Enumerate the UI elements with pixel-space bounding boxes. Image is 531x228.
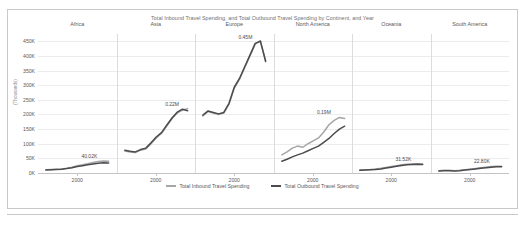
panel-title: Africa <box>38 21 117 27</box>
chart-panel: Africa40.02K2000 <box>38 34 117 173</box>
data-label: 0.45M <box>238 34 252 40</box>
legend-label: Total Outbound Travel Spending <box>284 183 358 189</box>
chart-legend: Total Inbound Travel SpendingTotal Outbo… <box>8 183 517 189</box>
panel-title: North America <box>274 21 353 27</box>
legend-label: Total Inbound Travel Spending <box>179 183 249 189</box>
series-line <box>281 126 344 161</box>
series-group <box>195 34 274 173</box>
x-axis-tick-mark <box>391 173 392 176</box>
y-axis-tick: 300K <box>23 82 35 88</box>
y-axis-tick: 250K <box>23 97 35 103</box>
legend-swatch-icon <box>166 185 176 187</box>
x-axis-tick-mark <box>77 173 78 176</box>
series-line <box>203 41 266 116</box>
panel-separator <box>431 34 432 173</box>
panel-separator <box>274 34 275 173</box>
series-group <box>117 34 196 173</box>
x-axis-tick-mark <box>313 173 314 176</box>
series-line <box>124 109 187 152</box>
panel-separator <box>195 34 196 173</box>
y-axis-tick: 150K <box>23 126 35 132</box>
chart-card: Total Inbound Travel Spending, and Total… <box>7 9 518 209</box>
x-axis-line <box>38 173 509 174</box>
series-line <box>203 41 266 115</box>
legend-item[interactable]: Total Inbound Travel Spending <box>166 183 249 189</box>
y-axis-tick: 450K <box>23 38 35 44</box>
panel-separator <box>117 34 118 173</box>
chart-panel: North America0.19M2000 <box>274 34 353 173</box>
chart-panel: Oceania31.52K2000 <box>352 34 431 173</box>
panel-separator <box>352 34 353 173</box>
chart-panel: Europe0.45M2000 <box>195 34 274 173</box>
bottom-divider <box>7 214 518 215</box>
series-group <box>352 34 431 173</box>
data-label: 31.52K <box>395 156 411 162</box>
y-axis-tick: 50K <box>26 155 35 161</box>
y-axis-tick: 200K <box>23 111 35 117</box>
series-line <box>46 163 109 170</box>
series-line <box>46 161 109 170</box>
data-label: 0.19M <box>317 109 331 115</box>
plot-area: Africa40.02K2000Asia0.22M2000Europe0.45M… <box>38 34 509 173</box>
y-axis-tick: 350K <box>23 68 35 74</box>
series-group <box>274 34 353 173</box>
series-line <box>438 167 501 171</box>
data-label: 0.22M <box>165 101 179 107</box>
series-line <box>360 164 423 170</box>
chart-panel: South America22.80K2000 <box>431 34 510 173</box>
chart-panel: Asia0.22M2000 <box>117 34 196 173</box>
panel-title: Europe <box>195 21 274 27</box>
panel-title: Asia <box>117 21 196 27</box>
y-axis-tick: 400K <box>23 53 35 59</box>
data-label: 40.02K <box>81 153 97 159</box>
y-axis-tick-labels: 0K50K100K150K200K250K300K350K400K450K <box>8 34 37 173</box>
x-axis-tick-mark <box>156 173 157 176</box>
series-group <box>38 34 117 173</box>
y-axis-tick: 100K <box>23 141 35 147</box>
panel-title: Oceania <box>352 21 431 27</box>
y-axis-tick: 0K <box>29 170 35 176</box>
series-group <box>431 34 510 173</box>
legend-swatch-icon <box>271 185 281 187</box>
x-axis-tick-mark <box>234 173 235 176</box>
data-label: 22.80K <box>474 158 490 164</box>
panel-title: South America <box>431 21 510 27</box>
legend-item[interactable]: Total Outbound Travel Spending <box>271 183 358 189</box>
series-line <box>124 109 187 153</box>
x-axis-tick-mark <box>470 173 471 176</box>
